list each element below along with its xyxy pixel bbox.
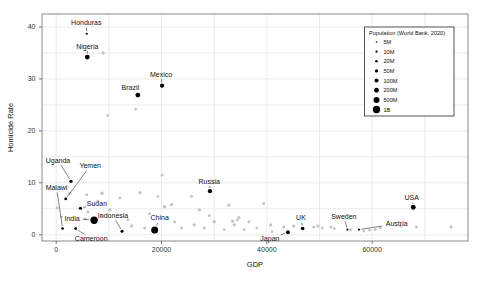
legend-label-200m: 200M (384, 87, 398, 93)
legend-title: Population (World Bank, 2020) (369, 30, 445, 36)
background-point (312, 225, 315, 228)
background-point (362, 230, 365, 233)
background-point (233, 223, 236, 226)
country-label-sudan: Sudan (87, 200, 107, 207)
background-point (108, 208, 111, 211)
background-point (271, 230, 274, 233)
background-point (247, 220, 250, 223)
x-tick-label: 0 (54, 246, 58, 253)
country-point-cameroon (74, 227, 77, 230)
background-point (198, 208, 201, 211)
background-point (156, 195, 159, 198)
background-point (212, 220, 215, 223)
country-label-cameroon: Cameroon (75, 235, 108, 242)
background-point (379, 227, 382, 230)
country-label-russia: Russia (199, 178, 221, 185)
background-point (415, 225, 418, 228)
background-point (86, 210, 89, 213)
x-axis-title: GDP (247, 260, 263, 269)
background-point (163, 205, 167, 209)
country-point-austria (358, 228, 360, 230)
leader-line-sudan (83, 207, 86, 208)
background-point (262, 202, 265, 205)
background-point (236, 218, 239, 221)
country-label-usa: USA (404, 194, 419, 201)
country-point-nigeria (85, 55, 90, 60)
background-point (203, 227, 206, 230)
background-point (269, 223, 272, 226)
country-label-india: India (65, 215, 80, 222)
leader-line-cameroon (78, 230, 85, 235)
background-point (292, 224, 295, 227)
country-label-brazil: Brazil (122, 84, 140, 91)
background-point (450, 225, 453, 228)
background-point (106, 114, 109, 117)
x-tick-label: 20000 (152, 246, 172, 253)
legend-dot-200m (374, 88, 379, 93)
country-point-usa (411, 205, 416, 210)
background-point (56, 206, 59, 209)
background-point (282, 225, 285, 228)
legend-label-10m: 10M (384, 49, 395, 55)
country-point-uk (301, 227, 305, 231)
y-tick-label: 20 (28, 127, 36, 134)
country-label-indonesia: Indonesia (98, 212, 128, 219)
country-label-mexico: Mexico (150, 71, 172, 78)
legend-dot-1b (373, 106, 380, 113)
country-label-honduras: Honduras (71, 19, 102, 26)
y-tick-label: 0 (32, 231, 36, 238)
country-label-sweden: Sweden (331, 213, 356, 220)
leader-line-malawi (57, 192, 62, 226)
x-tick-label: 60000 (362, 246, 382, 253)
country-point-uganda (69, 180, 72, 183)
country-label-china: China (151, 214, 169, 221)
legend-label-500m: 500M (384, 97, 398, 103)
legend-label-5m: 5M (384, 39, 392, 45)
background-point (130, 224, 133, 227)
y-tick-label: 40 (28, 23, 36, 30)
legend-label-100m: 100M (384, 78, 398, 84)
country-label-japan: Japan (260, 235, 279, 243)
background-point (119, 196, 122, 199)
legend-dot-10m (375, 51, 377, 53)
background-point (100, 191, 104, 195)
country-point-brazil (135, 93, 140, 98)
country-point-honduras (86, 33, 88, 35)
background-point (161, 174, 164, 177)
legend-dot-5m (376, 41, 378, 43)
background-point (368, 229, 371, 232)
legend-dot-20m (375, 60, 378, 63)
country-point-mexico (160, 84, 164, 88)
country-label-yemen: Yemen (79, 162, 101, 169)
scatter-chart-figure: HondurasNigeriaBrazilMexicoUgandaYemenMa… (0, 0, 477, 283)
country-point-yemen (64, 198, 67, 201)
background-point (227, 204, 230, 207)
background-point (193, 223, 196, 226)
legend-dot-100m (375, 79, 379, 83)
background-point (374, 228, 377, 231)
country-label-uganda: Uganda (46, 157, 71, 165)
country-point-sudan (79, 207, 82, 210)
legend-label-20m: 20M (384, 58, 395, 64)
background-point (316, 224, 319, 227)
legend-label-50m: 50M (384, 68, 395, 74)
country-point-japan (286, 230, 290, 234)
background-point (349, 228, 352, 231)
country-label-uk: UK (296, 214, 306, 221)
leader-line-uganda (61, 165, 70, 179)
country-point-malawi (61, 227, 64, 230)
background-point (85, 193, 88, 196)
legend-label-1b: 1B (384, 107, 391, 113)
background-point (231, 220, 234, 223)
country-point-india (90, 217, 97, 224)
background-point (208, 214, 211, 217)
background-point (134, 108, 137, 111)
background-point (330, 225, 333, 228)
country-point-russia (208, 189, 212, 193)
country-label-nigeria: Nigeria (76, 43, 98, 51)
country-point-china (151, 227, 158, 234)
country-label-malawi: Malawi (46, 184, 68, 191)
leader-line-indonesia (116, 220, 121, 228)
background-point (255, 227, 258, 230)
background-point (143, 227, 146, 230)
